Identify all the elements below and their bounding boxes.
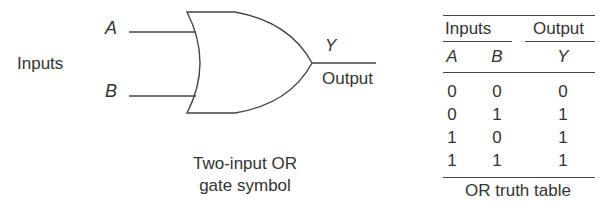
cell-b: 0 (487, 83, 507, 100)
gate-caption-line2: gate symbol (170, 175, 320, 197)
truth-table-caption: OR truth table (443, 182, 593, 199)
output-variable-label: Y (325, 37, 336, 54)
input-a-label: A (105, 19, 117, 37)
column-header-a: A (442, 48, 462, 65)
cell-b: 0 (487, 129, 507, 146)
output-label: Output (322, 70, 373, 87)
header-bottom-rule (443, 72, 595, 73)
cell-b: 1 (487, 152, 507, 169)
gate-caption: Two-input OR gate symbol (170, 153, 320, 197)
cell-b: 1 (487, 106, 507, 123)
table-bottom-rule (443, 177, 595, 178)
inputs-group-header: Inputs (445, 20, 491, 37)
cell-a: 0 (442, 106, 462, 123)
cell-a: 1 (442, 152, 462, 169)
or-gate-body (187, 12, 312, 113)
cell-a: 0 (442, 83, 462, 100)
cell-y: 1 (553, 129, 573, 146)
cell-y: 1 (553, 106, 573, 123)
cell-y: 0 (553, 83, 573, 100)
column-header-y: Y (553, 48, 573, 65)
gate-caption-line1: Two-input OR (170, 153, 320, 175)
output-group-rule (525, 41, 595, 42)
table-top-rule (443, 15, 595, 16)
output-group-header: Output (533, 20, 584, 37)
input-b-label: B (105, 82, 117, 100)
inputs-group-rule (443, 41, 512, 42)
cell-a: 1 (442, 129, 462, 146)
column-header-b: B (487, 48, 507, 65)
cell-y: 1 (553, 152, 573, 169)
inputs-label: Inputs (17, 55, 63, 72)
